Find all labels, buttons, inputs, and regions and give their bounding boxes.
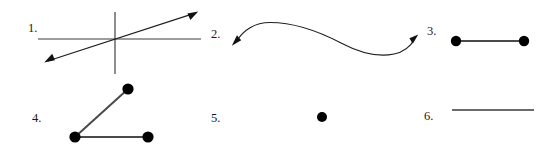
figure-3-number-label: 3. (427, 24, 436, 38)
figure-6-number-label: 6. (424, 109, 433, 123)
figure-4-segment-upper (75, 89, 128, 137)
figure-4-number-label: 4. (32, 111, 41, 125)
figure-canvas: 1. 2. 3. 4. 5. 6. (0, 0, 551, 153)
figure-4-dot-right (142, 131, 153, 142)
figure-4-group: 4. (32, 83, 154, 142)
figure-3-group: 3. (427, 24, 529, 46)
figure-1-arrowhead-lower-left (44, 54, 55, 63)
figure-3-endpoint-dot-right (519, 36, 529, 46)
figure-1-group: 1. (28, 11, 201, 74)
figure-5-group: 5. (211, 111, 327, 125)
figure-6-group: 6. (424, 109, 534, 123)
figure-1-arrowhead-upper-right (187, 11, 198, 20)
figure-4-dot-vertex (69, 131, 80, 142)
figure-4-dot-top (122, 83, 133, 94)
figure-5-number-label: 5. (211, 111, 220, 125)
figure-2-s-curve-shaft (237, 23, 415, 56)
figure-3-endpoint-dot-left (451, 36, 461, 46)
figure-1-diagonal-arrow-shaft (49, 14, 194, 61)
figure-2-arrowhead-right (409, 35, 418, 44)
figure-5-point-dot (317, 112, 327, 122)
figure-2-group: 2. (211, 23, 418, 56)
figure-1-number-label: 1. (28, 21, 37, 35)
figure-2-number-label: 2. (211, 27, 220, 41)
